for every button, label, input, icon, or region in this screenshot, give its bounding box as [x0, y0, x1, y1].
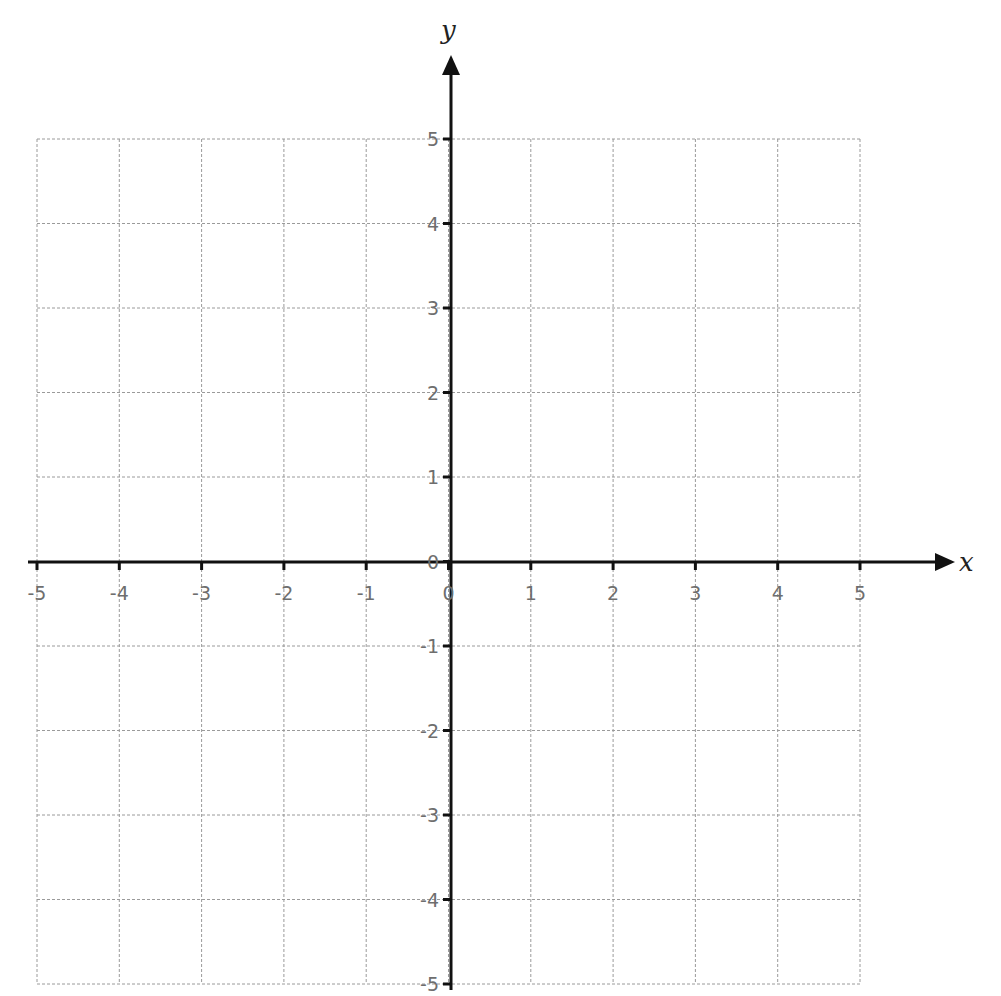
y-axis-label: y — [440, 15, 456, 45]
x-tick-label: 3 — [689, 582, 701, 604]
x-tick-label: -3 — [192, 582, 211, 604]
x-tick-label: 2 — [607, 582, 619, 604]
y-tick-label: 1 — [427, 466, 439, 488]
y-tick-label: -1 — [420, 635, 439, 657]
y-tick-label: -5 — [420, 973, 439, 995]
y-tick-label: 4 — [427, 213, 439, 235]
axes — [28, 55, 955, 990]
y-tick-label: -2 — [420, 720, 439, 742]
y-tick-label: 0 — [427, 551, 439, 573]
x-tick-label: 0 — [442, 582, 454, 604]
x-axis-arrow-icon — [935, 553, 955, 571]
x-tick-label: 5 — [854, 582, 866, 604]
x-tick-label: -5 — [28, 582, 47, 604]
x-tick-label: 1 — [525, 582, 537, 604]
y-tick-label: -3 — [420, 804, 439, 826]
x-tick-label: -4 — [110, 582, 129, 604]
x-tick-label: -2 — [274, 582, 293, 604]
y-tick-label: 5 — [427, 128, 439, 150]
coordinate-plane: -5-4-3-2-1012345-5-4-3-2-1012345 x y — [0, 0, 1001, 996]
x-tick-label: -1 — [357, 582, 376, 604]
y-tick-label: 2 — [427, 382, 439, 404]
x-axis-label: x — [959, 547, 974, 577]
x-tick-label: 4 — [772, 582, 784, 604]
y-tick-label: -4 — [420, 889, 439, 911]
y-axis-arrow-icon — [442, 55, 460, 75]
y-tick-label: 3 — [427, 297, 439, 319]
